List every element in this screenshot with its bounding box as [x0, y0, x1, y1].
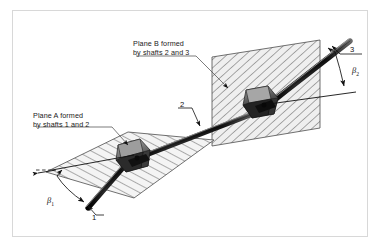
diagram-canvas: Plane A formed by shafts 1 and 2 Plane B… — [0, 0, 382, 250]
plane-b-label: Plane B formed by shafts 2 and 3 — [133, 39, 189, 57]
beta1-label: β1 — [47, 196, 54, 209]
shaft-2-callout: 2 — [180, 101, 184, 109]
shaft-3-callout: 3 — [350, 46, 354, 54]
plane-b-label-line2: by shafts 2 and 3 — [133, 48, 189, 57]
plane-b-label-line1: Plane B formed — [133, 39, 189, 48]
shaft-1-callout: 1 — [92, 214, 96, 222]
beta2-subscript: 2 — [356, 71, 359, 77]
beta1-subscript: 1 — [51, 201, 54, 207]
plane-a-label-line1: Plane A formed — [33, 111, 89, 120]
leader-shaft-2 — [178, 108, 200, 126]
plane-a-label-line2: by shafts 1 and 2 — [33, 120, 89, 129]
plane-a-label: Plane A formed by shafts 1 and 2 — [33, 111, 89, 129]
beta2-label: β2 — [352, 66, 359, 79]
